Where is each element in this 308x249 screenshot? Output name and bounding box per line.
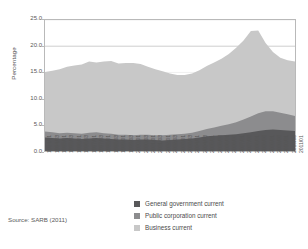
x-tick-label: 2001/03 (157, 135, 163, 153)
x-tick-label: 1994/01 (46, 135, 52, 153)
y-axis-title: Percentage (10, 29, 17, 99)
x-tick-label: 2006/03 (231, 135, 237, 153)
x-tick-label: 2005/03 (217, 135, 223, 153)
x-tick-label: 1996/01 (76, 135, 82, 153)
legend-swatch-icon (134, 213, 140, 219)
x-tick-label: 1998/01 (105, 135, 111, 153)
x-tick-label: 2009/01 (269, 135, 275, 153)
x-tick-label: 2001/01 (150, 135, 156, 153)
x-tick-label: 2004/03 (202, 135, 208, 153)
legend-swatch-icon (134, 225, 140, 231)
stacked-area-svg (45, 20, 295, 151)
y-tick-label: 10.0 (18, 95, 42, 101)
x-tick-label: 1998/03 (113, 135, 119, 153)
x-tick-label: 1995/03 (68, 135, 74, 153)
x-tick-label: 2002/01 (165, 135, 171, 153)
y-tick-label: 20.0 (18, 42, 42, 48)
chart-figure: Percentage 0.05.010.015.020.025.0 1994/0… (0, 0, 308, 249)
x-tick-label: 1996/03 (83, 135, 89, 153)
legend-item[interactable]: General government current (134, 198, 304, 209)
x-axis-ticks: 1994/011994/031995/011995/031996/011996/… (44, 153, 296, 193)
x-tick-label: 2004/01 (194, 135, 200, 153)
legend-item[interactable]: Public corporation current (134, 210, 304, 221)
x-tick-label: 2008/03 (261, 135, 267, 153)
legend-label: Business current (145, 224, 192, 231)
x-tick-label: 2000/03 (143, 135, 149, 153)
x-tick-label: 2000/01 (135, 135, 141, 153)
y-tick-label: 5.0 (18, 121, 42, 127)
x-tick-label: 2007/03 (246, 135, 252, 153)
legend-item[interactable]: Business current (134, 222, 304, 233)
x-tick-label: 2008/01 (254, 135, 260, 153)
x-tick-label: 1997/03 (98, 135, 104, 153)
y-tick-label: 15.0 (18, 68, 42, 74)
x-tick-label: 2005/01 (209, 135, 215, 153)
plot-area (44, 19, 296, 152)
x-tick-label: 1997/01 (91, 135, 97, 153)
x-tick-label: 2002/03 (172, 135, 178, 153)
source-note: Source: SARB (2011) (8, 216, 67, 223)
x-tick-label: 2010/03 (291, 135, 297, 153)
x-tick-label: 1999/03 (128, 135, 134, 153)
y-tick-label: 25.0 (18, 15, 42, 21)
x-tick-label: 2003/03 (187, 135, 193, 153)
legend-swatch-icon (134, 201, 140, 207)
chart-legend: General government currentPublic corpora… (134, 198, 304, 234)
x-tick-label: 1994/03 (54, 135, 60, 153)
x-tick-label: 2007/01 (239, 135, 245, 153)
x-tick-label: 1995/01 (61, 135, 67, 153)
x-tick-label: 2003/01 (180, 135, 186, 153)
y-tick-label: 0.0 (18, 148, 42, 154)
x-tick-label: 2009/03 (276, 135, 282, 153)
x-tick-label: 2006/01 (224, 135, 230, 153)
x-tick-label: 2011/01 (298, 135, 304, 153)
legend-label: General government current (145, 200, 224, 207)
legend-label: Public corporation current (145, 212, 217, 219)
x-tick-label: 2010/01 (283, 135, 289, 153)
x-tick-label: 1999/01 (120, 135, 126, 153)
